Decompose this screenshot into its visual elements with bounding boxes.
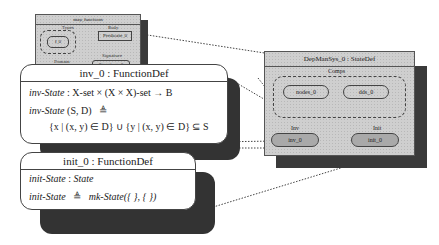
inv-def-args: (S, D) <box>65 105 92 116</box>
mini-state-title: map_functions <box>36 15 140 25</box>
component-pill-nodes[interactable]: nodes_0 <box>283 85 329 99</box>
init-sig-type: State <box>73 173 93 184</box>
mini-types-group: f_0 <box>40 30 76 54</box>
state-def-title: DepManSys_0 : StateDef <box>265 52 414 67</box>
init-label: Init <box>373 125 381 131</box>
inv-function-box[interactable]: inv_0 : FunctionDef inv-State : X-set × … <box>20 64 228 144</box>
comps-label: Comps <box>328 68 345 74</box>
mini-pill[interactable]: f_0 <box>47 36 69 48</box>
init-function-box[interactable]: init_0 : FunctionDef init-State : State … <box>20 152 196 210</box>
init-sig-name: init-State <box>29 173 66 184</box>
inv-def-body: {x | (x, y) ∈ D} ∪ {y | (x, y) ∈ D} ⊆ S <box>49 121 209 132</box>
mini-body-box[interactable]: Predicate_0 <box>98 31 132 41</box>
inv-sig-name: inv-State <box>29 87 65 98</box>
init-pill[interactable]: init_0 <box>351 133 399 147</box>
component-pill-dds[interactable]: dds_0 <box>343 85 389 99</box>
inv-definition-head: inv-State (S, D) ≜ <box>29 105 107 116</box>
init-def-name: init-State <box>29 191 66 202</box>
inv-sig-type: : X-set × (X × X)-set → B <box>65 87 173 98</box>
mini-signature-label: Signature <box>102 53 122 58</box>
init-definition: init-State ≜ mk-State({ }, { }) <box>29 191 156 202</box>
init-def-symbol: ≜ <box>73 191 81 202</box>
init-signature: init-State : State <box>29 173 93 184</box>
state-def-box[interactable]: DepManSys_0 : StateDef Comps nodes_0 dds… <box>264 51 415 156</box>
inv-label: Inv <box>291 125 299 131</box>
inv-pill[interactable]: inv_0 <box>271 133 319 147</box>
inv-signature: inv-State : X-set × (X × X)-set → B <box>29 87 172 98</box>
inv-box-title: inv_0 : FunctionDef <box>21 65 227 82</box>
init-def-body: mk-State({ }, { }) <box>89 191 157 202</box>
mini-body-label: Body <box>108 25 118 30</box>
init-box-title: init_0 : FunctionDef <box>21 153 195 170</box>
inv-def-symbol: ≜ <box>99 105 107 116</box>
inv-def-name: inv-State <box>29 105 65 116</box>
